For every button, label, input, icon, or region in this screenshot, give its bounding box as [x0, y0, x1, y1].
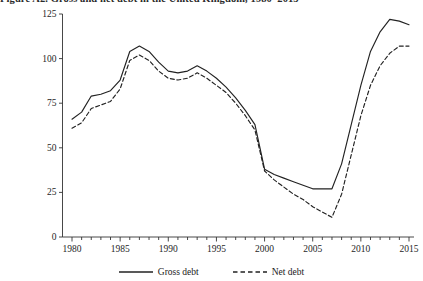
chart-page: Figure A2. Gross and net debt in the Uni…	[0, 0, 423, 281]
chart-svg	[0, 0, 423, 281]
y-tick-label: 75	[0, 98, 57, 108]
legend-item: Net debt	[233, 267, 304, 277]
legend-swatch-solid	[119, 268, 153, 276]
x-tick-label: 2010	[351, 244, 370, 254]
plot-area: 0255075100125 19801985199019952000200520…	[0, 0, 423, 281]
x-tick-label: 1985	[111, 244, 130, 254]
x-tick-label: 1990	[159, 244, 178, 254]
y-tick-label: 125	[0, 9, 57, 19]
axis-layer	[59, 14, 414, 242]
legend-swatch-dashed	[233, 268, 267, 276]
x-tick-label: 2000	[255, 244, 274, 254]
legend-label: Net debt	[272, 267, 304, 277]
series-layer	[72, 19, 409, 217]
legend-label: Gross debt	[158, 267, 199, 277]
x-tick-label: 2015	[400, 244, 419, 254]
x-tick-label: 1980	[63, 244, 82, 254]
y-tick-label: 25	[0, 187, 57, 197]
series-line-gross-debt	[72, 19, 409, 188]
y-tick-label: 0	[0, 232, 57, 242]
legend-item: Gross debt	[119, 267, 199, 277]
y-tick-label: 50	[0, 143, 57, 153]
y-tick-label: 100	[0, 54, 57, 64]
x-tick-label: 1995	[207, 244, 226, 254]
chart-legend: Gross debtNet debt	[0, 262, 423, 281]
x-tick-label: 2005	[303, 244, 322, 254]
